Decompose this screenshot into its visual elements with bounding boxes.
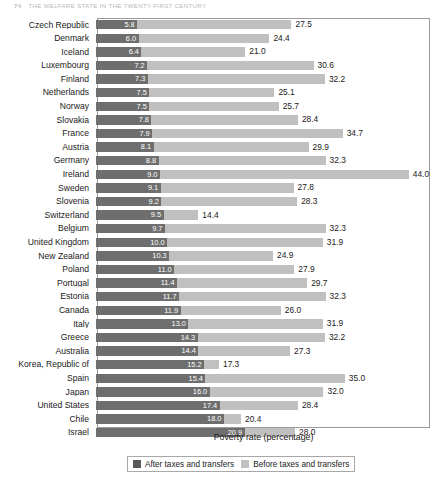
bar-after-taxes: 6.4 (96, 47, 141, 56)
bar-value-before: 17.3 (219, 360, 239, 369)
bar-value-before: 14.4 (198, 211, 218, 220)
row-label-israel: Israel (0, 428, 93, 437)
row-bar-track: 7.5 (96, 102, 279, 111)
bar-value-before: 27.3 (290, 347, 310, 356)
bar-before-taxes (204, 360, 219, 369)
row-label-ireland: Ireland (0, 170, 93, 179)
row-bar-track: 13.0 (96, 319, 323, 328)
row-label-italy: Italy (0, 320, 93, 329)
bar-before-taxes (161, 197, 297, 206)
row-bar-area: 7.828.4 (93, 113, 446, 127)
row-bar-track: 7.2 (96, 61, 314, 70)
bar-before-taxes (188, 319, 322, 328)
bar-value-after: 8.8 (146, 157, 156, 164)
row-bar-area: 6.024.4 (93, 32, 446, 46)
row-bar-track: 14.4 (96, 346, 290, 355)
bar-value-before: 32.2 (325, 333, 345, 342)
bar-before-taxes (147, 61, 313, 70)
row-bar-track: 7.5 (96, 88, 274, 97)
bar-before-taxes (165, 224, 326, 233)
row-bar-area: 7.525.1 (93, 86, 446, 100)
bar-value-after: 16.0 (193, 388, 207, 395)
page-running-head: 74 THE WELFARE STATE IN THE TWENTY-FIRST… (0, 0, 446, 11)
row-bar-track: 15.4 (96, 374, 345, 383)
row-bar-area: 9.127.8 (93, 181, 446, 195)
bar-after-taxes: 7.9 (96, 129, 152, 138)
row-bar-track: 9.1 (96, 183, 294, 192)
legend-item-after: After taxes and transfers (133, 460, 234, 469)
bar-value-after: 15.2 (187, 361, 201, 368)
chart-row: Sweden9.127.8 (0, 181, 446, 195)
row-bar-track: 6.4 (96, 47, 245, 56)
chart-row: Netherlands7.525.1 (0, 86, 446, 100)
row-bar-track: 11.0 (96, 265, 294, 274)
bar-value-before: 20.4 (241, 415, 261, 424)
row-label-spain: Spain (0, 374, 93, 383)
bar-after-taxes: 7.5 (96, 102, 149, 111)
row-bar-track: 14.3 (96, 333, 325, 342)
bar-value-before: 25.1 (274, 88, 294, 97)
chart-row: New Zealand10.324.9 (0, 249, 446, 263)
bar-value-after: 11.7 (163, 293, 177, 300)
bar-value-before: 28.4 (298, 115, 318, 124)
row-bar-area: 8.129.9 (93, 140, 446, 154)
row-bar-area: 11.732.3 (93, 290, 446, 304)
chart-row: Norway7.525.7 (0, 100, 446, 114)
running-head-title: THE WELFARE STATE IN THE TWENTY-FIRST CE… (28, 3, 206, 9)
bar-before-taxes (139, 34, 270, 43)
row-bar-track: 5.8 (96, 20, 291, 29)
legend-swatch-light-icon (241, 460, 249, 468)
bar-after-taxes: 16.0 (96, 387, 210, 396)
bar-value-before: 44.0 (409, 170, 429, 179)
bar-value-before: 24.4 (269, 34, 289, 43)
row-label-sweden: Sweden (0, 184, 93, 193)
bar-value-before: 25.7 (279, 102, 299, 111)
bar-before-taxes (177, 278, 307, 287)
chart-row: Poland11.027.9 (0, 263, 446, 277)
bar-value-after: 9.2 (149, 198, 159, 205)
row-bar-area: 10.031.9 (93, 236, 446, 250)
bar-after-taxes: 10.3 (96, 251, 169, 260)
chart-row: United Kingdom10.031.9 (0, 236, 446, 250)
chart-row: Austria8.129.9 (0, 140, 446, 154)
row-bar-area: 15.217.3 (93, 358, 446, 372)
bar-before-taxes (181, 306, 281, 315)
bar-value-before: 35.0 (345, 374, 365, 383)
chart-row: Australia14.427.3 (0, 344, 446, 358)
row-bar-track: 15.2 (96, 360, 219, 369)
bar-after-taxes: 9.7 (96, 224, 165, 233)
row-bar-area: 9.044.0 (93, 168, 446, 182)
bar-after-taxes: 11.0 (96, 265, 174, 274)
row-label-norway: Norway (0, 102, 93, 111)
bar-value-after: 7.8 (139, 116, 149, 123)
row-label-new-zealand: New Zealand (0, 252, 93, 261)
bar-before-taxes (167, 238, 323, 247)
row-bar-area: 7.934.7 (93, 127, 446, 141)
bar-before-taxes (198, 333, 325, 342)
bar-before-taxes (174, 265, 294, 274)
row-bar-track: 17.4 (96, 401, 298, 410)
bar-value-after: 10.0 (150, 239, 164, 246)
row-bar-area: 8.832.3 (93, 154, 446, 168)
legend-swatch-dark-icon (133, 460, 141, 468)
row-label-austria: Austria (0, 143, 93, 152)
chart-row: Luxembourg7.230.6 (0, 59, 446, 73)
bar-after-taxes: 7.5 (96, 88, 149, 97)
bar-before-taxes (179, 292, 325, 301)
chart-rows: Czech Republic5.827.5Denmark6.024.4Icela… (0, 18, 446, 428)
chart-row: Iceland6.421.0 (0, 45, 446, 59)
bar-value-after: 18.0 (207, 415, 221, 422)
row-bar-area: 14.427.3 (93, 344, 446, 358)
bar-after-taxes: 17.4 (96, 401, 220, 410)
bar-before-taxes (169, 251, 273, 260)
bar-value-after: 9.0 (147, 171, 157, 178)
row-label-slovenia: Slovenia (0, 197, 93, 206)
bar-value-before: 29.7 (307, 279, 327, 288)
row-label-finland: Finland (0, 75, 93, 84)
bar-value-after: 7.3 (135, 75, 145, 82)
row-bar-area: 9.228.3 (93, 195, 446, 209)
bar-before-taxes (151, 115, 297, 124)
bar-after-taxes: 8.1 (96, 142, 154, 151)
row-bar-area: 16.032.0 (93, 385, 446, 399)
bar-after-taxes: 10.0 (96, 238, 167, 247)
